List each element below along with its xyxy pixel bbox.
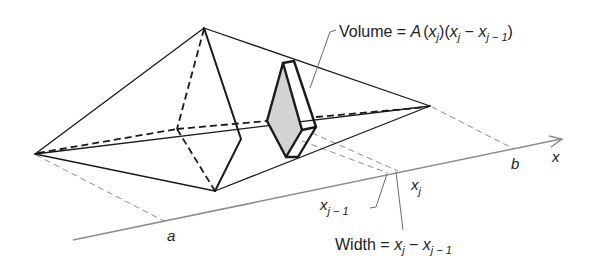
axis-label-b: b <box>511 155 519 172</box>
solid-slab-diagram: Volume = A(xj)(xj − xj − 1) Width = xj −… <box>0 0 594 265</box>
volume-leader <box>310 30 336 88</box>
width-label: Width = xj − xj − 1 <box>335 236 452 256</box>
paren: ) <box>508 23 513 40</box>
xj1-sub: j − 1 <box>326 205 349 217</box>
projection-slab-right <box>312 133 398 171</box>
slab <box>267 61 316 157</box>
hidden-edge-back-bottom <box>177 129 215 191</box>
projection-slab-left <box>302 141 388 173</box>
hidden-edge-left-back <box>38 129 177 153</box>
edge-left-apex-top <box>35 28 204 154</box>
label-xj: xj <box>410 176 422 197</box>
middle-cross-section <box>204 28 241 191</box>
width-prefix: Width = <box>335 236 394 253</box>
volume-prefix: Volume = <box>339 23 411 40</box>
hidden-edge-top-back <box>177 29 204 129</box>
xj1-leader <box>370 174 387 208</box>
x-axis-line <box>73 139 561 240</box>
edge-left-apex-bottom <box>35 154 215 191</box>
volume-A: A <box>410 23 422 40</box>
volume-label: Volume = A(xj)(xj − xj − 1) <box>339 23 513 43</box>
width-minus: − <box>405 236 423 253</box>
width-sub2: j − 1 <box>429 244 452 256</box>
axis-label-x: x <box>551 148 560 165</box>
diagram-canvas: Volume = A(xj)(xj − xj − 1) Width = xj −… <box>0 0 594 265</box>
label-xj-minus-1: xj − 1 <box>319 196 349 217</box>
x-axis <box>73 136 562 240</box>
volume-minus: − <box>460 23 478 40</box>
projection-left-apex <box>36 155 164 221</box>
width-leader <box>396 172 403 230</box>
projection-right-apex <box>432 107 514 149</box>
cross-section-front-edges <box>204 28 241 191</box>
axis-label-a: a <box>167 227 175 244</box>
volume-sub3: j − 1 <box>484 31 507 43</box>
